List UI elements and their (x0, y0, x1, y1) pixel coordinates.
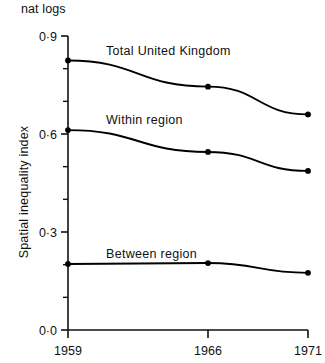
y-tick-label: 0·0 (39, 324, 57, 338)
data-point (65, 127, 71, 133)
data-point (205, 84, 211, 90)
data-point (205, 260, 211, 266)
series-line (68, 130, 308, 171)
data-point (65, 58, 71, 64)
y-axis-major-ticks (61, 36, 68, 330)
series-inline-label: Within region (106, 113, 183, 127)
series-inline-label: Total United Kingdom (106, 44, 231, 58)
data-point (305, 270, 311, 276)
series-line (68, 61, 308, 115)
x-tick-label: 1966 (194, 344, 222, 358)
x-axis-tick-labels: 195919661971 (54, 344, 322, 358)
y-axis-tick-labels: 0·00·30·60·9 (39, 30, 57, 338)
data-point (305, 168, 311, 174)
data-point (205, 149, 211, 155)
y-tick-label: 0·6 (39, 128, 57, 142)
x-tick-label: 1971 (294, 344, 322, 358)
chart-page: nat logs Spatial inequality index 0·00·3… (0, 0, 325, 363)
x-axis-ticks (68, 330, 308, 338)
y-tick-label: 0·9 (39, 30, 57, 44)
series-lines (68, 61, 308, 273)
data-point (65, 261, 71, 267)
data-point (305, 112, 311, 118)
y-tick-label: 0·3 (39, 226, 57, 240)
x-tick-label: 1959 (54, 344, 82, 358)
series-inline-label: Between region (106, 247, 197, 261)
line-chart: 0·00·30·60·9 195919661971 Total United K… (0, 0, 325, 363)
series-line (68, 263, 308, 273)
